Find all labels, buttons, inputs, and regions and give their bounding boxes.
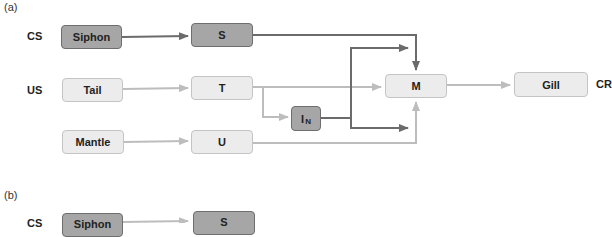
- tail-label: Tail: [83, 84, 101, 96]
- tail-box: Tail: [62, 78, 123, 102]
- t-label: T: [219, 82, 226, 94]
- arrow-tail-t: [122, 88, 188, 89]
- cr-label: CR: [596, 78, 612, 90]
- b-siphon-label: Siphon: [74, 218, 111, 230]
- u-box: U: [191, 130, 253, 154]
- arrow-siphon-s: [122, 36, 188, 37]
- mantle-box: Mantle: [62, 130, 124, 154]
- s-box: S: [191, 23, 253, 47]
- b-s-label: S: [220, 216, 227, 228]
- interneuron-label: I: [301, 113, 304, 125]
- u-label: U: [218, 136, 226, 148]
- cs-label: CS: [27, 30, 42, 42]
- b-cs-label: CS: [27, 217, 42, 229]
- arrow-t-in: [263, 87, 288, 117]
- gill-box: Gill: [514, 72, 588, 97]
- arrow-in-lower: [351, 118, 408, 128]
- arrow-s-m: [252, 35, 416, 70]
- arrow-mantle-u: [123, 141, 188, 142]
- siphon-box: Siphon: [61, 25, 122, 49]
- m-box: M: [385, 74, 447, 98]
- interneuron-box: IN: [291, 106, 321, 131]
- us-label: US: [27, 84, 42, 96]
- gill-label: Gill: [542, 79, 560, 91]
- panel-a-label: (a): [4, 1, 17, 13]
- arrow-b-siphon-s: [122, 221, 188, 222]
- panel-b-label: (b): [4, 189, 17, 201]
- s-label: S: [218, 29, 225, 41]
- b-s-box: S: [193, 211, 255, 235]
- interneuron-subscript: N: [305, 117, 311, 126]
- t-box: T: [191, 76, 253, 100]
- siphon-label: Siphon: [73, 31, 110, 43]
- mantle-label: Mantle: [76, 136, 111, 148]
- m-label: M: [411, 80, 420, 92]
- b-siphon-box: Siphon: [62, 213, 123, 237]
- arrow-u-m: [253, 102, 416, 143]
